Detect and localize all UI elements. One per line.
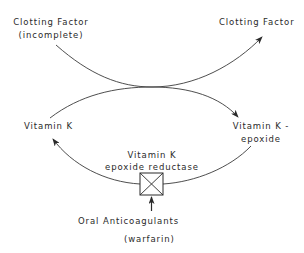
clotting-factor-incomplete-label: Clotting Factor (incomplete): [10, 17, 92, 40]
enzyme-label: Vitamin K epoxide reductase: [102, 150, 202, 172]
oxidation-arrow: [50, 87, 238, 118]
enzyme-line2: epoxide reductase: [102, 162, 202, 172]
vitamin-k-epoxide-label: Vitamin K - epoxide: [226, 121, 296, 144]
inhibitor-line1: Oral Anticoagulants: [78, 216, 179, 226]
enzyme-inhibition-box-icon: [140, 173, 163, 195]
vitamin-k-epoxide-line2: epoxide: [226, 134, 296, 144]
clotting-factor-label: Clotting Factor: [219, 17, 295, 27]
vitamin-k-label: Vitamin K: [24, 121, 73, 131]
inhibitor-line2: (warfarin): [124, 234, 175, 244]
clotting-factor-incomplete-line2: (incomplete): [10, 30, 92, 40]
carboxylation-arrow: [56, 37, 262, 87]
enzyme-line1: Vitamin K: [102, 150, 202, 160]
vitamin-k-epoxide-line1: Vitamin K -: [226, 121, 296, 131]
clotting-factor-incomplete-line1: Clotting Factor: [10, 17, 92, 27]
